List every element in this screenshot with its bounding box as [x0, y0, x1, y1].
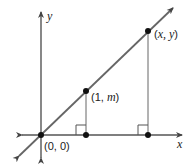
foot-point-2: [145, 132, 151, 138]
point-1-m-label: (1, m): [91, 90, 119, 104]
coordinate-diagram: y x (0, 0) (1, m) (x, y): [0, 0, 193, 165]
point-x-y-label: (x, y): [154, 27, 178, 41]
foot-point-1: [83, 132, 89, 138]
point-1-m: [83, 88, 89, 94]
origin-label: (0, 0): [44, 140, 70, 152]
x-axis-label: x: [176, 137, 183, 151]
point-origin: [38, 132, 44, 138]
point-x-y: [145, 28, 151, 34]
y-axis-label: y: [46, 9, 53, 23]
